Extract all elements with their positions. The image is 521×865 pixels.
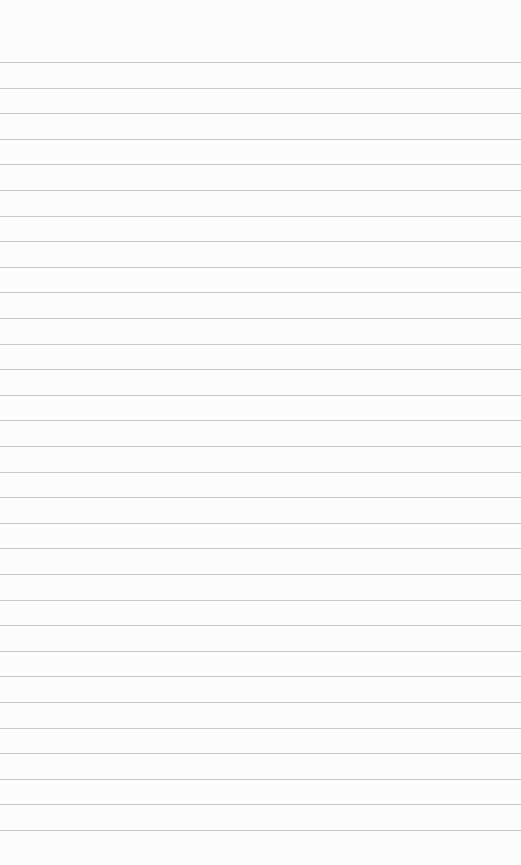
ruled-line <box>0 241 521 242</box>
ruled-line <box>0 395 521 396</box>
ruled-line <box>0 164 521 165</box>
lined-paper <box>0 0 521 865</box>
ruled-line <box>0 574 521 575</box>
ruled-line <box>0 113 521 114</box>
ruled-line <box>0 600 521 601</box>
ruled-line <box>0 702 521 703</box>
ruled-line <box>0 830 521 831</box>
ruled-line <box>0 292 521 293</box>
ruled-line <box>0 651 521 652</box>
ruled-line <box>0 497 521 498</box>
ruled-line <box>0 548 521 549</box>
ruled-line <box>0 267 521 268</box>
ruled-line <box>0 779 521 780</box>
ruled-line <box>0 318 521 319</box>
ruled-line <box>0 472 521 473</box>
ruled-line <box>0 190 521 191</box>
ruled-line <box>0 804 521 805</box>
ruled-line <box>0 88 521 89</box>
ruled-line <box>0 369 521 370</box>
ruled-line <box>0 62 521 63</box>
ruled-line <box>0 139 521 140</box>
ruled-line <box>0 625 521 626</box>
ruled-line <box>0 523 521 524</box>
ruled-line <box>0 676 521 677</box>
ruled-line <box>0 728 521 729</box>
ruled-line <box>0 216 521 217</box>
ruled-line <box>0 344 521 345</box>
ruled-line <box>0 753 521 754</box>
ruled-line <box>0 446 521 447</box>
ruled-line <box>0 420 521 421</box>
